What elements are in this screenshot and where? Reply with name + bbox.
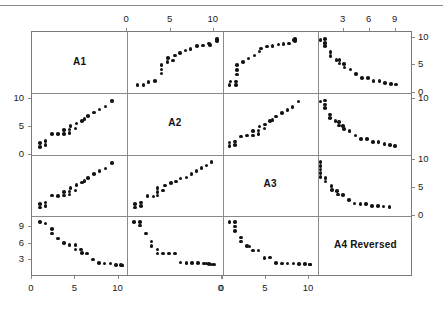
scatter-panel-r1-c3 xyxy=(223,32,318,93)
data-point xyxy=(239,240,243,244)
data-point xyxy=(251,134,255,138)
data-point xyxy=(248,245,252,249)
data-point xyxy=(280,111,284,115)
data-point xyxy=(195,44,199,48)
data-point xyxy=(75,183,79,187)
data-point xyxy=(291,105,295,109)
data-point xyxy=(86,176,90,180)
axis-tick-label-right: 5 xyxy=(418,181,442,192)
diagonal-panel-label: A2 xyxy=(127,117,222,128)
data-point xyxy=(178,51,182,55)
data-point xyxy=(156,252,160,256)
data-point xyxy=(44,139,48,143)
data-point xyxy=(280,262,284,266)
data-point xyxy=(297,100,301,104)
data-point xyxy=(98,108,102,112)
data-point xyxy=(372,79,376,83)
axis-tick-right xyxy=(412,64,415,65)
data-point xyxy=(160,63,164,67)
data-point xyxy=(136,83,140,87)
data-point xyxy=(263,123,267,127)
data-point xyxy=(185,176,189,180)
data-point xyxy=(38,206,42,210)
data-point xyxy=(69,124,73,128)
data-point xyxy=(323,44,327,48)
data-point xyxy=(74,189,78,193)
data-point xyxy=(282,42,286,46)
data-point xyxy=(150,244,154,248)
axis-tick-left xyxy=(28,154,31,155)
data-point xyxy=(166,60,170,64)
data-point xyxy=(359,137,363,141)
scatter-panel-r1-c2 xyxy=(127,32,222,93)
data-point xyxy=(173,252,177,256)
data-point xyxy=(370,204,374,208)
data-point xyxy=(271,118,275,122)
data-point xyxy=(388,205,392,209)
data-point xyxy=(169,181,173,185)
axis-tick-label-bottom: 5 xyxy=(60,282,88,293)
data-point xyxy=(228,220,232,224)
axis-tick-label-left: 10 xyxy=(0,92,24,103)
data-point xyxy=(265,45,269,49)
data-point xyxy=(160,68,164,72)
data-point xyxy=(83,179,87,183)
data-point xyxy=(371,140,375,144)
axis-tick-label-top: 9 xyxy=(381,13,409,24)
data-point xyxy=(235,73,239,77)
axis-tick-bottom xyxy=(265,276,266,279)
data-point xyxy=(38,145,42,149)
data-point xyxy=(171,59,175,63)
data-point xyxy=(336,193,340,197)
data-point xyxy=(293,39,297,43)
axis-tick-right xyxy=(412,98,415,99)
diagonal-panel-a2: A2 xyxy=(127,93,222,154)
axis-tick-label-right: 0 xyxy=(418,209,442,220)
data-point xyxy=(287,42,291,46)
data-point xyxy=(83,117,87,121)
data-point xyxy=(50,227,54,231)
data-point xyxy=(166,56,170,60)
data-point xyxy=(156,194,160,198)
data-point xyxy=(184,49,188,53)
data-point xyxy=(86,114,90,118)
data-point xyxy=(341,193,345,197)
data-point xyxy=(196,261,200,265)
axis-tick-label-bottom: 10 xyxy=(104,282,132,293)
data-point xyxy=(347,198,351,202)
data-point xyxy=(91,258,95,262)
diagonal-panel-a3: A3 xyxy=(223,155,318,216)
data-point xyxy=(132,220,136,224)
data-point xyxy=(389,82,393,86)
data-point xyxy=(233,229,237,233)
data-point xyxy=(233,220,237,224)
data-point xyxy=(74,248,78,252)
data-point xyxy=(245,134,249,138)
axis-tick-top xyxy=(395,28,396,31)
data-point xyxy=(229,80,233,84)
data-point xyxy=(38,220,42,224)
data-point xyxy=(274,115,278,119)
scatter-panel-r2-c1 xyxy=(32,93,127,154)
data-point xyxy=(160,72,164,76)
scatter-panel-r4-c3 xyxy=(223,216,318,277)
data-point xyxy=(354,134,358,138)
data-point xyxy=(338,62,342,66)
data-point xyxy=(201,44,205,48)
axis-tick-label-left: 5 xyxy=(0,120,24,131)
data-point xyxy=(235,68,239,72)
diagonal-panel-label: A4 Reversed xyxy=(318,239,413,250)
data-point xyxy=(319,175,323,179)
axis-tick-left xyxy=(28,226,31,227)
axis-tick-top xyxy=(126,28,127,31)
data-point xyxy=(215,39,219,43)
data-point xyxy=(382,205,386,209)
data-point xyxy=(179,261,183,265)
data-point xyxy=(62,241,66,245)
data-point xyxy=(292,262,296,266)
data-point xyxy=(56,132,60,136)
data-point xyxy=(50,194,54,198)
data-point xyxy=(354,72,358,76)
axis-tick-label-right: 5 xyxy=(418,58,442,69)
axis-tick-top xyxy=(369,28,370,31)
